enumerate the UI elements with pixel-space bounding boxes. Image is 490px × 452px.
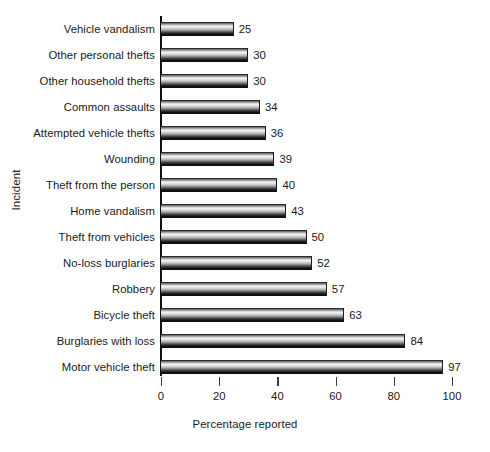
bar-row: Home vandalism43 bbox=[0, 198, 490, 224]
bar bbox=[161, 308, 344, 322]
bar-value-label: 36 bbox=[271, 120, 284, 146]
bar bbox=[161, 22, 234, 36]
bar-row: Wounding39 bbox=[0, 146, 490, 172]
bar-category-label: Attempted vehicle thefts bbox=[33, 120, 155, 146]
bar-row: Other personal thefts30 bbox=[0, 42, 490, 68]
bar-category-label: Wounding bbox=[104, 146, 155, 172]
bar-category-label: Other personal thefts bbox=[48, 42, 155, 68]
bar-row: Vehicle vandalism25 bbox=[0, 16, 490, 42]
bar-category-label: Burglaries with loss bbox=[57, 328, 155, 354]
bar-value-label: 84 bbox=[410, 328, 423, 354]
plot-area: Vehicle vandalism25Other personal thefts… bbox=[0, 0, 490, 380]
bar-value-label: 30 bbox=[253, 42, 266, 68]
bar-category-label: Theft from vehicles bbox=[59, 224, 155, 250]
bar-value-label: 40 bbox=[282, 172, 295, 198]
bar-chart: Incident Vehicle vandalism25Other person… bbox=[0, 0, 490, 452]
x-axis-tick-label: 100 bbox=[432, 390, 472, 402]
bar-category-label: Bicycle theft bbox=[93, 302, 155, 328]
bar-value-label: 34 bbox=[265, 94, 278, 120]
x-axis-tick bbox=[452, 377, 453, 386]
x-axis-tick-label: 40 bbox=[257, 390, 297, 402]
bar-row: Theft from vehicles50 bbox=[0, 224, 490, 250]
bar-value-label: 30 bbox=[253, 68, 266, 94]
bar bbox=[161, 360, 443, 374]
bar bbox=[161, 100, 260, 114]
x-axis-tick bbox=[161, 377, 162, 386]
bar-value-label: 52 bbox=[317, 250, 330, 276]
bar bbox=[161, 204, 286, 218]
bar-row: Robbery57 bbox=[0, 276, 490, 302]
bar bbox=[161, 48, 248, 62]
x-axis-tick bbox=[394, 377, 395, 386]
bar-category-label: Theft from the person bbox=[46, 172, 155, 198]
bar-row: Common assaults34 bbox=[0, 94, 490, 120]
bar-row: Bicycle theft63 bbox=[0, 302, 490, 328]
x-axis-tick-label: 0 bbox=[141, 390, 181, 402]
bar bbox=[161, 230, 307, 244]
bar bbox=[161, 256, 312, 270]
x-axis-tick bbox=[336, 377, 337, 386]
bar-row: Attempted vehicle thefts36 bbox=[0, 120, 490, 146]
bar-category-label: No-loss burglaries bbox=[63, 250, 155, 276]
bar-row: Burglaries with loss84 bbox=[0, 328, 490, 354]
bar-category-label: Other household thefts bbox=[40, 68, 155, 94]
bar bbox=[161, 334, 405, 348]
bar-value-label: 39 bbox=[279, 146, 292, 172]
bar-category-label: Motor vehicle theft bbox=[62, 354, 155, 380]
bar-category-label: Common assaults bbox=[64, 94, 155, 120]
bar-row: No-loss burglaries52 bbox=[0, 250, 490, 276]
x-axis-tick-label: 60 bbox=[316, 390, 356, 402]
x-axis-tick bbox=[277, 377, 278, 386]
x-axis-tick-label: 20 bbox=[199, 390, 239, 402]
bar-value-label: 97 bbox=[448, 354, 461, 380]
bar-category-label: Vehicle vandalism bbox=[64, 16, 155, 42]
bar bbox=[161, 152, 274, 166]
bar-value-label: 50 bbox=[312, 224, 325, 250]
bar bbox=[161, 74, 248, 88]
bar bbox=[161, 126, 266, 140]
x-axis-title: Percentage reported bbox=[0, 418, 490, 430]
x-axis-tick bbox=[219, 377, 220, 386]
bar-row: Other household thefts30 bbox=[0, 68, 490, 94]
bar-value-label: 43 bbox=[291, 198, 304, 224]
bar-category-label: Home vandalism bbox=[70, 198, 155, 224]
x-axis-tick-label: 80 bbox=[374, 390, 414, 402]
bar-row: Motor vehicle theft97 bbox=[0, 354, 490, 380]
bar bbox=[161, 178, 277, 192]
bar bbox=[161, 282, 327, 296]
bar-value-label: 63 bbox=[349, 302, 362, 328]
bar-category-label: Robbery bbox=[112, 276, 155, 302]
bar-value-label: 57 bbox=[332, 276, 345, 302]
bar-value-label: 25 bbox=[239, 16, 252, 42]
bar-row: Theft from the person40 bbox=[0, 172, 490, 198]
